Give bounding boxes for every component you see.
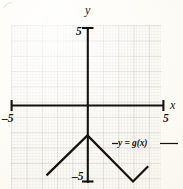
y-axis-max-tick-label: 5: [76, 26, 82, 38]
x-axis-label: x: [170, 99, 175, 111]
y-axis-label: y: [85, 4, 90, 16]
graph-vector-layer: [0, 0, 183, 189]
x-axis-min-tick-label: –5: [2, 113, 14, 125]
x-axis-max-tick-label: 5: [163, 113, 169, 125]
graph-screenshot: y x 5 –5 –5 5 y = g(x): [0, 0, 183, 189]
function-label: y = g(x): [118, 139, 147, 149]
y-axis-min-tick-label: –5: [72, 171, 84, 183]
